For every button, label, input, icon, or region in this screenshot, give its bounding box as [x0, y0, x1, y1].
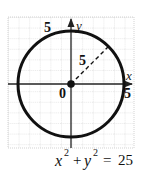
svg-text:2: 2 [93, 147, 98, 158]
svg-text:2: 2 [64, 147, 69, 158]
label-origin: 0 [59, 86, 66, 101]
svg-text:+: + [73, 152, 81, 168]
svg-text:=: = [103, 152, 111, 168]
label-radius-five: 5 [79, 53, 86, 68]
svg-text:y: y [82, 152, 92, 170]
label-right-five: 5 [124, 86, 131, 101]
circle-diagram: 5 y 5 x 5 0 x 2 + y 2 = 25 [0, 0, 142, 171]
center-dot [67, 80, 75, 88]
equation: x 2 + y 2 = 25 [54, 147, 133, 170]
svg-text:25: 25 [118, 152, 133, 168]
label-y-axis: y [74, 18, 82, 33]
svg-text:x: x [54, 152, 62, 169]
label-x-axis: x [125, 68, 132, 83]
label-top-five: 5 [44, 20, 51, 35]
